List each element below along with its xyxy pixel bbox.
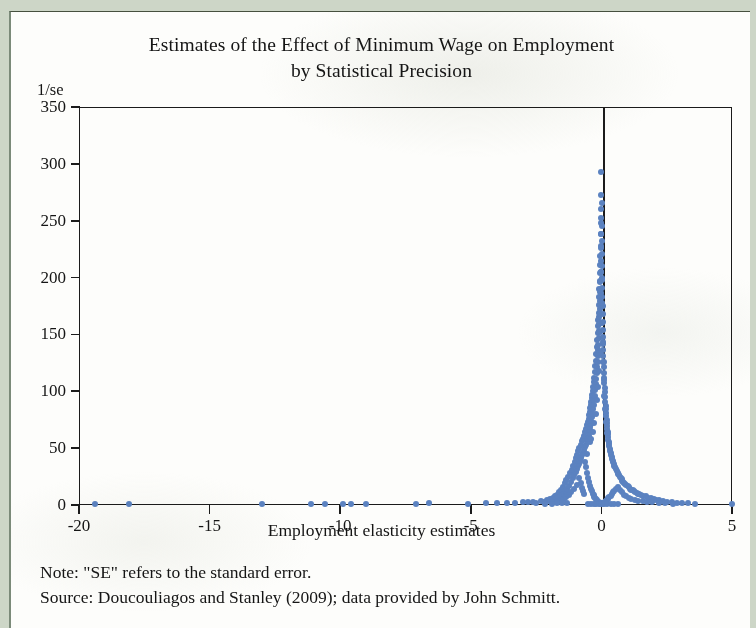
- data-point: [413, 501, 419, 507]
- data-point: [483, 500, 489, 506]
- data-point: [729, 501, 735, 507]
- y-axis-tick-label: 200: [6, 268, 66, 288]
- y-axis-tick-label: 0: [6, 495, 66, 515]
- chart-title-line-1: Estimates of the Effect of Minimum Wage …: [11, 32, 752, 58]
- funnel-plot: 050100150200250300350 -20-15-10-505: [70, 98, 742, 516]
- footnotes: Note: "SE" refers to the standard error.…: [40, 560, 740, 610]
- x-axis-title: Employment elasticity estimates: [11, 520, 752, 541]
- data-point: [542, 501, 548, 507]
- x-axis-tick: [470, 505, 472, 514]
- document-page: Estimates of the Effect of Minimum Wage …: [9, 11, 750, 628]
- footnote-source: Source: Doucouliagos and Stanley (2009);…: [40, 585, 740, 610]
- data-point: [656, 500, 662, 506]
- data-point: [601, 377, 607, 383]
- y-axis-tick-label: 350: [6, 97, 66, 117]
- data-point: [549, 501, 555, 507]
- data-point: [599, 238, 605, 244]
- data-point: [685, 500, 691, 506]
- data-point: [598, 269, 604, 275]
- data-point: [670, 501, 676, 507]
- data-point: [581, 491, 587, 497]
- y-axis-tick: [71, 334, 80, 336]
- y-axis-tick: [71, 390, 80, 392]
- data-point: [692, 501, 698, 507]
- y-axis-tick: [71, 220, 80, 222]
- y-axis-tick-label: 300: [6, 154, 66, 174]
- x-axis-tick: [209, 505, 211, 514]
- chart-title: Estimates of the Effect of Minimum Wage …: [11, 32, 752, 84]
- y-axis-tick: [71, 163, 80, 165]
- data-point: [348, 501, 354, 507]
- data-point: [595, 384, 601, 390]
- y-axis-tick-label: 100: [6, 381, 66, 401]
- y-axis-tick-label: 150: [6, 324, 66, 344]
- data-point: [426, 500, 432, 506]
- data-point: [363, 501, 369, 507]
- data-point: [494, 500, 500, 506]
- footnote-note: Note: "SE" refers to the standard error.: [40, 560, 740, 585]
- data-point: [126, 501, 132, 507]
- data-point: [599, 300, 605, 306]
- data-point: [554, 500, 560, 506]
- data-point: [662, 500, 668, 506]
- data-point: [92, 501, 98, 507]
- data-point: [512, 500, 518, 506]
- plot-frame: [79, 107, 732, 505]
- data-point: [593, 376, 599, 382]
- x-axis-tick: [78, 505, 80, 514]
- chart-title-line-2: by Statistical Precision: [11, 58, 752, 84]
- data-point: [593, 411, 599, 417]
- data-point: [596, 368, 602, 374]
- y-axis-tick-label: 50: [6, 438, 66, 458]
- data-point: [599, 277, 605, 283]
- data-point: [615, 501, 621, 507]
- data-point: [597, 350, 603, 356]
- scanned-page-background: Estimates of the Effect of Minimum Wage …: [0, 0, 756, 628]
- data-point: [600, 359, 606, 365]
- data-point: [584, 451, 590, 457]
- data-point: [598, 192, 604, 198]
- y-axis-tick-label: 250: [6, 211, 66, 231]
- data-point: [308, 501, 314, 507]
- y-axis-tick: [71, 106, 80, 108]
- data-point: [340, 501, 346, 507]
- data-point: [322, 501, 328, 507]
- y-axis-tick: [71, 447, 80, 449]
- data-point: [599, 251, 605, 257]
- data-point: [259, 501, 265, 507]
- data-point: [603, 419, 609, 425]
- data-point: [465, 501, 471, 507]
- data-point: [599, 200, 605, 206]
- y-axis-tick: [71, 277, 80, 279]
